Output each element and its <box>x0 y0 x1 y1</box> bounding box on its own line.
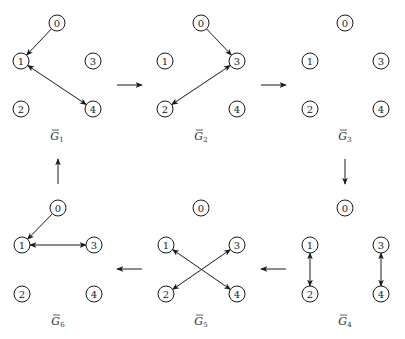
node-label: 0 <box>342 203 348 214</box>
edge-0-1 <box>28 214 53 240</box>
node-4: 4 <box>86 286 102 302</box>
node-3: 3 <box>373 237 389 253</box>
node-label: 3 <box>91 240 97 251</box>
node-1: 1 <box>158 237 174 253</box>
node-2: 2 <box>158 286 174 302</box>
node-label: 4 <box>234 289 240 300</box>
node-3: 3 <box>86 237 102 253</box>
node-2: 2 <box>302 101 318 117</box>
node-label: 3 <box>234 56 240 67</box>
edge-0-3 <box>207 29 232 55</box>
node-3: 3 <box>373 53 389 69</box>
node-label: 2 <box>19 289 25 300</box>
edge-1-4 <box>28 65 87 104</box>
node-label: 4 <box>378 289 384 300</box>
node-3: 3 <box>85 53 101 69</box>
node-label: 1 <box>307 56 313 67</box>
graph-g4: 01234G4 <box>302 200 389 329</box>
node-label: 4 <box>234 104 240 115</box>
node-0: 0 <box>49 15 65 31</box>
node-label: 0 <box>342 18 348 29</box>
node-0: 0 <box>337 200 353 216</box>
node-4: 4 <box>85 101 101 117</box>
edge-3-2 <box>172 65 231 104</box>
node-4: 4 <box>229 101 245 117</box>
node-0: 0 <box>193 200 209 216</box>
edge-0-1 <box>27 29 52 55</box>
graph-sequence-diagram: 01234G101234G201234G301234G401234G501234… <box>0 0 405 339</box>
node-2: 2 <box>14 286 30 302</box>
node-label: 4 <box>90 104 96 115</box>
node-label: 0 <box>198 203 204 214</box>
node-label: 0 <box>198 18 204 29</box>
node-label: 2 <box>18 104 24 115</box>
node-label: 2 <box>307 104 313 115</box>
node-label: 1 <box>19 240 25 251</box>
node-0: 0 <box>50 200 66 216</box>
node-4: 4 <box>373 286 389 302</box>
graph-g6: 01234G6 <box>14 200 102 329</box>
node-label: 3 <box>378 56 384 67</box>
node-label: 4 <box>91 289 97 300</box>
node-label: 1 <box>307 240 313 251</box>
graphs: 01234G101234G201234G301234G401234G501234… <box>13 15 389 329</box>
node-2: 2 <box>157 101 173 117</box>
graph-label: G4 <box>338 315 352 329</box>
node-1: 1 <box>302 237 318 253</box>
node-1: 1 <box>157 53 173 69</box>
node-label: 2 <box>162 104 168 115</box>
node-label: 3 <box>234 240 240 251</box>
node-1: 1 <box>13 53 29 69</box>
node-label: 2 <box>307 289 313 300</box>
graph-label: G5 <box>194 315 207 329</box>
node-label: 2 <box>163 289 169 300</box>
graph-g3: 01234G3 <box>302 15 389 144</box>
node-0: 0 <box>337 15 353 31</box>
node-label: 1 <box>163 240 169 251</box>
graph-label: G1 <box>50 130 63 144</box>
node-2: 2 <box>302 286 318 302</box>
node-label: 1 <box>162 56 168 67</box>
graph-g2: 01234G2 <box>157 15 245 144</box>
node-3: 3 <box>229 53 245 69</box>
graph-label: G2 <box>194 130 207 144</box>
node-0: 0 <box>193 15 209 31</box>
graph-g1: 01234G1 <box>13 15 101 144</box>
node-label: 0 <box>54 18 60 29</box>
node-4: 4 <box>373 101 389 117</box>
node-1: 1 <box>14 237 30 253</box>
node-2: 2 <box>13 101 29 117</box>
node-label: 0 <box>55 203 61 214</box>
graph-g5: 01234G5 <box>158 200 245 329</box>
node-4: 4 <box>229 286 245 302</box>
node-label: 3 <box>90 56 96 67</box>
node-label: 3 <box>378 240 384 251</box>
node-label: 1 <box>18 56 24 67</box>
graph-label: G3 <box>338 130 351 144</box>
node-label: 4 <box>378 104 384 115</box>
node-1: 1 <box>302 53 318 69</box>
node-3: 3 <box>229 237 245 253</box>
graph-label: G6 <box>51 315 65 329</box>
